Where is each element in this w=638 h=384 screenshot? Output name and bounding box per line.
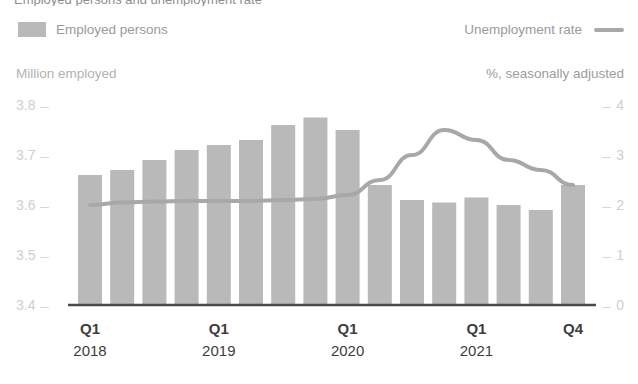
x-axis-label: Q12018: [73, 318, 106, 362]
x-axis-label: Q12021: [460, 318, 493, 362]
bar: [400, 200, 424, 305]
bar: [142, 160, 166, 305]
bar: [368, 185, 392, 305]
bar: [497, 205, 521, 305]
bar: [207, 145, 231, 305]
bar: [78, 175, 102, 305]
bar: [239, 140, 263, 305]
bar: [271, 125, 295, 305]
x-axis-label: Q12019: [202, 318, 235, 362]
bar: [175, 150, 199, 305]
bar: [464, 198, 488, 306]
bar: [561, 185, 585, 305]
x-axis-label: Q4: [563, 318, 583, 340]
chart-root: Employed persons and unemployment rate E…: [0, 0, 638, 384]
bar: [336, 130, 360, 305]
bar-series: [78, 118, 585, 306]
bar: [303, 118, 327, 306]
x-axis-label: Q12020: [331, 318, 364, 362]
bar: [110, 170, 134, 305]
bar: [529, 210, 553, 305]
bar: [432, 203, 456, 306]
